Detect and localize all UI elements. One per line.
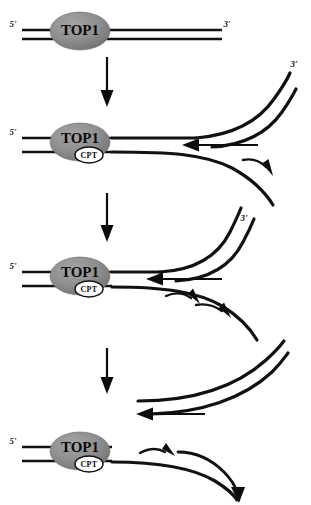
five-prime-label: 5' bbox=[9, 19, 17, 29]
panel-3: 3' TOP1 CPT 5' bbox=[9, 208, 257, 340]
panel-2: 3' TOP1 CPT 5' bbox=[9, 59, 298, 205]
diagram-canvas: TOP1 5' 3' bbox=[0, 0, 311, 505]
cpt-label: CPT bbox=[81, 151, 98, 160]
step-arrow-2 bbox=[101, 193, 114, 242]
replication-direction-arrow-lower-2 bbox=[196, 303, 231, 319]
broken-strand-lower-partner bbox=[178, 452, 238, 494]
five-prime-label: 5' bbox=[9, 127, 17, 137]
replication-direction-arrow-lower bbox=[140, 443, 175, 456]
step-arrow-1 bbox=[101, 57, 114, 107]
three-prime-label: 3' bbox=[289, 59, 298, 69]
five-prime-label: 5' bbox=[9, 436, 17, 446]
top1-label: TOP1 bbox=[61, 130, 99, 146]
replication-direction-arrow-lower bbox=[243, 159, 273, 176]
top1-label: TOP1 bbox=[61, 264, 99, 280]
step-arrow-3 bbox=[101, 348, 114, 394]
fork-arm-upper-outer bbox=[196, 73, 290, 138]
panel-4: TOP1 CPT 5' bbox=[9, 341, 288, 503]
three-prime-label: 3' bbox=[239, 213, 248, 223]
top1-label: TOP1 bbox=[61, 439, 99, 455]
cpt-label: CPT bbox=[81, 285, 98, 294]
top1-label: TOP1 bbox=[61, 22, 99, 38]
three-prime-label: 3' bbox=[222, 19, 231, 29]
panel-1: TOP1 5' 3' bbox=[9, 12, 231, 50]
released-strand-inner bbox=[150, 353, 288, 414]
cpt-label: CPT bbox=[81, 460, 98, 469]
figure-root: TOP1 5' 3' bbox=[0, 0, 311, 505]
five-prime-label: 5' bbox=[9, 261, 17, 271]
released-strand-outer bbox=[138, 341, 284, 401]
